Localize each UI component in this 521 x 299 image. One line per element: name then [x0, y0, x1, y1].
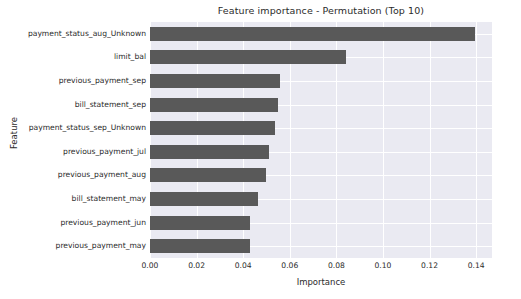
y-tick-label: payment_status_aug_Unknown [4, 29, 150, 38]
y-tick-label: bill_statement_sep [4, 100, 150, 109]
x-tick-label: 0.02 [177, 261, 217, 270]
bar [150, 27, 475, 41]
y-tick-label: bill_statement_may [4, 194, 150, 203]
bar [150, 145, 269, 159]
x-tick-label: 0.12 [410, 261, 450, 270]
bar [150, 239, 250, 253]
y-tick-label: limit_bal [4, 52, 150, 61]
x-tick-label: 0.10 [363, 261, 403, 270]
y-tick-label: previous_payment_jun [4, 218, 150, 227]
x-tick-label: 0.06 [270, 261, 310, 270]
y-tick-label: previous_payment_sep [4, 76, 150, 85]
bar [150, 168, 266, 182]
x-axis-label: Importance [150, 277, 492, 287]
bar [150, 192, 258, 206]
y-tick-label: previous_payment_jul [4, 147, 150, 156]
chart-figure: Feature importance - Permutation (Top 10… [0, 0, 521, 299]
bar [150, 216, 250, 230]
x-tick-label: 0.04 [223, 261, 263, 270]
y-axis-tick-labels: payment_status_aug_Unknownlimit_balprevi… [0, 22, 150, 258]
bar [150, 98, 278, 112]
x-tick-label: 0.08 [316, 261, 356, 270]
bar [150, 121, 275, 135]
y-tick-label: previous_payment_aug [4, 170, 150, 179]
chart-title: Feature importance - Permutation (Top 10… [150, 5, 492, 16]
plot-area [150, 22, 492, 258]
y-tick-label: previous_payment_may [4, 241, 150, 250]
x-axis-tick-labels: 0.000.020.040.060.080.100.120.14 [0, 261, 521, 275]
x-tick-label: 0.00 [130, 261, 170, 270]
bar [150, 74, 280, 88]
bar [150, 50, 346, 64]
y-tick-label: payment_status_sep_Unknown [4, 123, 150, 132]
x-tick-label: 0.14 [456, 261, 496, 270]
